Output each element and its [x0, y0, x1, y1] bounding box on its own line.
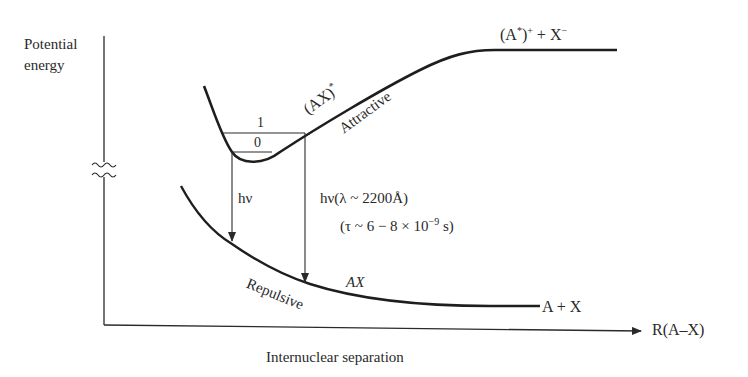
transition-wavelength-label: hν(λ ~ 2200Å): [320, 190, 408, 207]
x-axis-label: Internuclear separation: [266, 349, 404, 366]
y-axis-label-line2: energy: [24, 57, 65, 74]
diagram-canvas: [0, 0, 748, 377]
vibrational-level-0-label: 0: [254, 134, 261, 151]
x-axis: [104, 325, 641, 331]
vibrational-level-1-label: 1: [257, 114, 264, 131]
lower-curve-name: AX: [346, 274, 364, 291]
transition-hv-label: hν: [238, 190, 252, 207]
upper-curve-attractive: [204, 50, 617, 162]
lower-asymptote-label: A + X: [542, 298, 581, 315]
transition-lifetime-label: (τ ~ 6 − 8 × 10−9 s): [340, 213, 454, 235]
y-axis-label-line1: Potential: [24, 36, 77, 53]
x-axis-end-label: R(A–X): [652, 321, 704, 338]
y-axis: [92, 36, 116, 325]
upper-asymptote-label: (A*)+ + X−: [500, 22, 567, 43]
axis-break-icon: [92, 163, 116, 167]
